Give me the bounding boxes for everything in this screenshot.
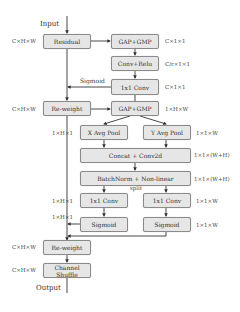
conv1x1-right-box: 1x1 Conv bbox=[143, 193, 191, 208]
sigmoid-right-box: Sigmoid bbox=[143, 217, 191, 232]
dim-x-avg-pool: 1×H×1 bbox=[52, 130, 73, 136]
dim-sigmoid-left: 1×H×1 bbox=[52, 214, 73, 220]
reweight-box-1: Re-weight bbox=[43, 101, 91, 116]
conv-relu-box: Conv+Relu bbox=[111, 56, 159, 71]
channel-shuffle-box: Channel Shuffle bbox=[43, 263, 91, 278]
x-avg-pool-box: X Avg Pool bbox=[80, 125, 128, 140]
residual-box: Residual bbox=[43, 34, 91, 49]
concat-conv2d-box: Concat + Conv2d bbox=[80, 148, 191, 163]
dim-gap-gmp-2: 1×H×W bbox=[165, 106, 188, 112]
dim-sigmoid-right: 1×1×W bbox=[196, 222, 218, 228]
sigmoid-left-box: Sigmoid bbox=[80, 217, 128, 232]
y-avg-pool-box: Y Avg Pool bbox=[143, 125, 191, 140]
conv1x1-left-box: 1x1 Conv bbox=[80, 193, 128, 208]
dim-concat-conv2d: 1×1×(W+H) bbox=[194, 152, 230, 158]
gap-gmp-box-2: GAP+GMP bbox=[111, 101, 159, 116]
dim-reweight-2: C×H×W bbox=[12, 244, 36, 250]
dim-residual: C×H×W bbox=[12, 38, 36, 44]
output-label: Output bbox=[36, 284, 61, 292]
sigmoid-label: Sigmoid bbox=[80, 77, 105, 84]
batchnorm-box: BatchNorm + Non-linear bbox=[80, 171, 191, 186]
gap-gmp-box-1: GAP+GMP bbox=[111, 34, 159, 49]
input-label: Input bbox=[40, 20, 59, 28]
dim-conv1x1-right: 1×1×W bbox=[196, 198, 218, 204]
dim-channel-shuffle: C×H×W bbox=[12, 267, 36, 273]
dim-y-avg-pool: 1×1×W bbox=[196, 130, 218, 136]
dim-batchnorm: 1×1×(W+H) bbox=[194, 176, 230, 182]
conv1x1-top-box: 1x1 Conv bbox=[111, 79, 159, 95]
dim-conv-relu: C/r×1×1 bbox=[165, 61, 190, 67]
dim-reweight-1: C×H×W bbox=[12, 106, 36, 112]
reweight-box-2: Re-weight bbox=[43, 240, 91, 255]
dim-conv1x1-left: 1×H×1 bbox=[52, 198, 73, 204]
dim-gap-gmp-1: C×1×1 bbox=[165, 38, 185, 44]
dim-conv1x1-top: C×1×1 bbox=[165, 84, 185, 90]
